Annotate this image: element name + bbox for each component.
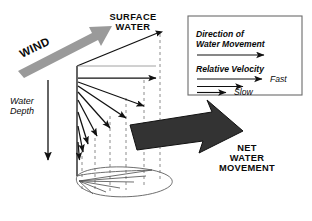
water-depth-label-line2: Depth [10, 106, 34, 116]
legend-direction-title-line2: Water Movement [196, 39, 266, 49]
net-water-label-line3: MOVEMENT [219, 163, 275, 173]
legend-fast-label: Fast [270, 74, 287, 84]
legend-slow-label: Slow [234, 87, 253, 97]
surface-water-label-line2: WATER [116, 22, 151, 32]
diagram-canvas: WIND SURFACE WATER [0, 0, 312, 221]
net-water-label-line1: NET [237, 143, 257, 153]
surface-water-label-line1: SURFACE [109, 12, 156, 22]
legend-direction-title-line1: Direction of [196, 29, 245, 39]
net-water-label-line2: WATER [230, 153, 264, 163]
legend: Direction of Water Movement Relative Vel… [188, 16, 302, 97]
legend-velocity-title: Relative Velocity [196, 64, 265, 74]
ekman-spiral-diagram: WIND SURFACE WATER [0, 0, 312, 221]
water-depth-label-line1: Water [10, 96, 35, 106]
